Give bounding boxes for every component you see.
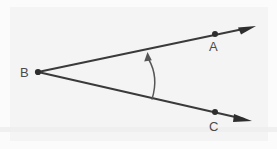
point-dot-a [212, 31, 218, 37]
point-dot-c [212, 109, 218, 115]
angle-arc-arrowhead [144, 52, 152, 62]
label-a: A [209, 39, 218, 54]
ray-bc-arrowhead [233, 114, 252, 122]
geometry-figure: B A C [0, 0, 277, 149]
figure-canvas: B A C [0, 0, 277, 149]
angle-arc [149, 59, 155, 99]
point-dot-b [35, 69, 41, 75]
label-b: B [20, 65, 29, 80]
label-c: C [209, 119, 219, 134]
ray-ba-arrowhead [238, 26, 256, 35]
